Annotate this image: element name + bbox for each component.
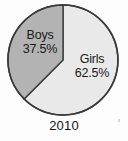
pie-label-girls-name: Girls bbox=[62, 52, 122, 66]
pie-label-boys-value: 37.5% bbox=[12, 42, 68, 56]
pie-label-boys: Boys 37.5% bbox=[12, 28, 68, 56]
pie-label-girls-value: 62.5% bbox=[62, 66, 122, 80]
pie-label-boys-name: Boys bbox=[12, 28, 68, 42]
scan-artifact-speck bbox=[118, 119, 120, 122]
chart-caption-year: 2010 bbox=[0, 118, 128, 133]
pie-label-girls: Girls 62.5% bbox=[62, 52, 122, 80]
pie-chart-figure: Boys 37.5% Girls 62.5% 2010 bbox=[0, 0, 128, 141]
